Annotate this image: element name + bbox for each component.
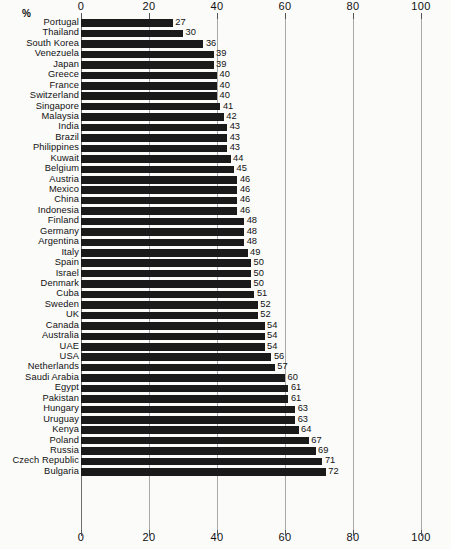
- category-label: Switzerland: [30, 90, 79, 100]
- bar-value-label: 39: [216, 48, 226, 58]
- bar: [81, 92, 217, 100]
- bar: [81, 270, 251, 278]
- x-tick-mark-0: [81, 530, 82, 536]
- category-label: Uruguay: [43, 414, 79, 424]
- category-label: Brazil: [55, 132, 79, 142]
- x-tick-mark-60: [285, 530, 286, 536]
- bar: [81, 61, 214, 69]
- bar: [81, 72, 217, 80]
- bar-value-label: 54: [267, 320, 277, 330]
- x-tick-mark-100: [421, 530, 422, 536]
- bar: [81, 176, 237, 184]
- bar-value-label: 40: [220, 90, 230, 100]
- bar: [81, 468, 326, 476]
- bar-value-label: 43: [230, 121, 240, 131]
- x-tick-label-80: 80: [346, 0, 359, 12]
- bar-value-label: 27: [175, 17, 185, 27]
- bar: [81, 385, 288, 393]
- category-label: Netherlands: [28, 361, 79, 371]
- bar: [81, 19, 173, 27]
- category-label: Venezuela: [35, 48, 79, 58]
- bar: [81, 228, 244, 236]
- bar: [81, 124, 227, 132]
- bar-value-label: 69: [318, 445, 328, 455]
- x-tick-mark-20: [149, 530, 150, 536]
- category-label: Kenya: [52, 424, 79, 434]
- bar: [81, 145, 227, 153]
- bar-value-label: 63: [298, 414, 308, 424]
- bar-value-label: 71: [325, 455, 335, 465]
- bar: [81, 280, 251, 288]
- bar: [81, 249, 248, 257]
- category-label: Cuba: [56, 288, 79, 298]
- bar-row: Bulgaria72: [0, 467, 451, 477]
- bar-value-label: 54: [267, 330, 277, 340]
- category-label: Singapore: [36, 101, 79, 111]
- x-tick-mark-40: [217, 530, 218, 536]
- category-label: Greece: [48, 69, 79, 79]
- bar: [81, 134, 227, 142]
- bar: [81, 82, 217, 90]
- category-label: Israel: [56, 268, 79, 278]
- bar-value-label: 52: [260, 309, 270, 319]
- x-tick-label-100: 100: [411, 0, 431, 12]
- category-label: Austria: [49, 174, 79, 184]
- category-label: Pakistan: [43, 393, 79, 403]
- bar: [81, 437, 309, 445]
- bar-value-label: 36: [206, 38, 216, 48]
- category-label: Portugal: [44, 17, 79, 27]
- x-tick-label-40: 40: [210, 0, 223, 12]
- bar-value-label: 72: [328, 466, 338, 476]
- category-label: Japan: [53, 59, 79, 69]
- category-label: Saudi Arabia: [25, 372, 79, 382]
- bar: [81, 51, 214, 59]
- bar: [81, 458, 322, 466]
- bar-value-label: 41: [223, 101, 233, 111]
- bar-value-label: 39: [216, 59, 226, 69]
- category-label: France: [49, 80, 79, 90]
- category-label: Poland: [49, 435, 79, 445]
- bar: [81, 333, 265, 341]
- bar: [81, 155, 231, 163]
- bar-value-label: 46: [240, 174, 250, 184]
- x-tick-mark-80: [353, 530, 354, 536]
- category-label: UK: [66, 309, 79, 319]
- bar-value-label: 61: [291, 393, 301, 403]
- bar: [81, 218, 244, 226]
- bar: [81, 364, 275, 372]
- category-label: Philippines: [33, 142, 79, 152]
- category-label: Kuwait: [50, 153, 79, 163]
- x-axis-top: 020406080100: [0, 0, 451, 18]
- bar: [81, 291, 254, 299]
- bar-value-label: 45: [237, 163, 247, 173]
- bar-value-label: 67: [311, 435, 321, 445]
- bar: [81, 426, 299, 434]
- category-label: Argentina: [38, 236, 79, 246]
- bar-value-label: 48: [247, 215, 257, 225]
- bar: [81, 322, 265, 330]
- bar-value-label: 43: [230, 132, 240, 142]
- bar: [81, 343, 265, 351]
- bar-value-label: 52: [260, 299, 270, 309]
- bar: [81, 374, 285, 382]
- category-label: Malaysia: [42, 111, 79, 121]
- bar-value-label: 43: [230, 142, 240, 152]
- category-label: Denmark: [41, 278, 79, 288]
- bar: [81, 406, 295, 414]
- category-label: India: [58, 121, 79, 131]
- bar-rows: Portugal27Thailand30South Korea36Venezue…: [0, 18, 451, 477]
- bar-value-label: 61: [291, 382, 301, 392]
- bar: [81, 207, 237, 215]
- category-label: Australia: [42, 330, 79, 340]
- category-label: Thailand: [43, 27, 79, 37]
- bar: [81, 353, 271, 361]
- category-label: USA: [60, 351, 79, 361]
- bar: [81, 166, 234, 174]
- bar-value-label: 30: [186, 27, 196, 37]
- bar: [81, 312, 258, 320]
- bar-value-label: 46: [240, 184, 250, 194]
- category-label: Hungary: [43, 403, 79, 413]
- bar: [81, 416, 295, 424]
- x-tick-label-20: 20: [142, 0, 155, 12]
- bar: [81, 447, 316, 455]
